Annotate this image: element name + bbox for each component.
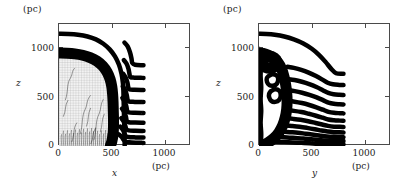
left-ytick-500: 500: [20, 92, 54, 102]
left-unit-top: (pc): [23, 4, 42, 14]
right-plot-frame: [258, 23, 390, 145]
contour-line: [260, 52, 261, 146]
left-unit-bottom: (pc): [152, 161, 170, 171]
left-contour-canvas: [59, 24, 191, 146]
panel-right: (pc) (pc) z y 0 500 1000 0 500 1000: [200, 0, 399, 185]
right-x-axis-label: y: [312, 168, 317, 178]
right-y-axis-label: z: [216, 78, 221, 88]
left-x-axis-label: x: [112, 168, 117, 178]
contour-line: [267, 74, 279, 86]
panel-left: (pc) (pc) z x 0 500 1000 0 500 1000: [0, 0, 199, 185]
left-y-axis-label: z: [16, 78, 21, 88]
contour-line: [269, 89, 281, 102]
right-xtick-500: 500: [294, 148, 328, 158]
right-ytick-1000: 1000: [220, 43, 254, 53]
left-ytick-1000: 1000: [20, 43, 54, 53]
right-contour-canvas: [259, 24, 391, 146]
right-xtick-1000: 1000: [347, 148, 381, 158]
contour-line: [276, 142, 344, 145]
left-plot-frame: [58, 23, 190, 145]
left-xtick-1000: 1000: [147, 148, 181, 158]
left-xtick-0: 0: [41, 148, 75, 158]
right-unit-top: (pc): [223, 4, 242, 14]
left-xtick-500: 500: [94, 148, 128, 158]
right-xtick-0: 0: [241, 148, 275, 158]
right-ytick-500: 500: [220, 92, 254, 102]
right-unit-bottom: (pc): [352, 161, 370, 171]
figure-two-panel-contour: (pc) (pc) z x 0 500 1000 0 500 1000: [0, 0, 399, 185]
